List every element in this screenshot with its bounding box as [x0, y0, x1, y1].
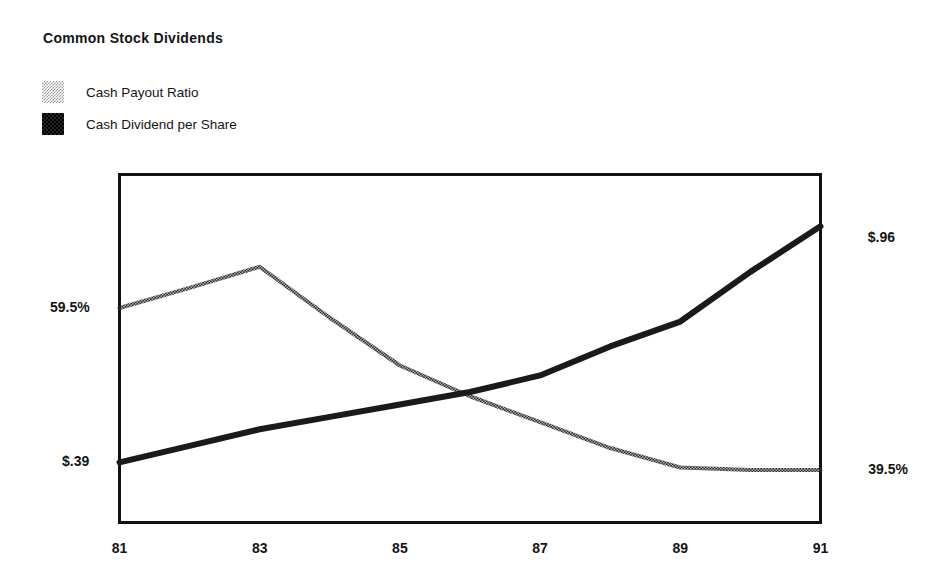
right-axis-label-payout-end: 39.5%: [868, 461, 908, 477]
plot-area: [0, 0, 930, 587]
series-cash-dividend-per-share: [120, 226, 821, 462]
x-axis-tick-81: 81: [112, 540, 128, 556]
x-axis-tick-87: 87: [532, 540, 548, 556]
x-axis-tick-89: 89: [673, 540, 689, 556]
left-axis-label-dividend-start: $.39: [62, 453, 89, 469]
x-axis-tick-91: 91: [813, 540, 829, 556]
x-axis-tick-85: 85: [392, 540, 408, 556]
right-axis-label-dividend-end: $.96: [868, 229, 895, 245]
left-axis-label-payout-start: 59.5%: [50, 299, 90, 315]
chart-figure: Common Stock Dividends Cash Payout Ratio…: [0, 0, 930, 587]
x-axis-tick-83: 83: [252, 540, 268, 556]
